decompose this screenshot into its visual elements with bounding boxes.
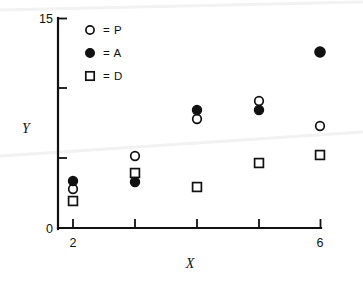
data-point-p-x3 (131, 152, 140, 161)
data-point-d-x2 (69, 197, 78, 206)
data-point-d-x5 (255, 159, 264, 168)
x-tick-label-2: 2 (70, 236, 77, 250)
y-tick-label-0: 0 (46, 222, 53, 236)
legend-marker-open-circle-icon (86, 26, 94, 34)
legend-marker-filled-circle-icon (86, 49, 95, 58)
legend-label-a: = A (103, 47, 122, 59)
x-tick-label-6: 6 (317, 236, 324, 250)
y-tick-label-15: 15 (39, 12, 53, 26)
data-point-a-x6 (315, 47, 325, 57)
x-axis-title: X (185, 256, 195, 271)
series-d-markers (69, 151, 325, 206)
data-point-a-x2 (68, 176, 77, 185)
data-point-p-x6 (316, 122, 325, 131)
data-point-a-x4 (192, 105, 201, 114)
legend-label-d: = D (103, 70, 123, 82)
legend: = P = A = D (86, 24, 123, 82)
data-point-d-x6 (316, 151, 325, 160)
data-point-a-x5 (254, 105, 263, 114)
data-point-d-x3 (131, 169, 140, 178)
data-point-d-x4 (193, 183, 202, 192)
y-axis: 15 0 Y (22, 12, 67, 236)
legend-label-p: = P (103, 24, 122, 36)
plot-canvas: 15 0 Y 2 6 X = P = A = D (0, 0, 363, 282)
data-point-p-x5 (255, 97, 264, 106)
data-point-a-x3 (130, 177, 139, 186)
scatter-chart-figure: 15 0 Y 2 6 X = P = A = D (0, 0, 363, 282)
scan-artifacts (0, 2, 363, 156)
data-point-p-x4 (193, 115, 202, 124)
legend-marker-open-square-icon (86, 72, 94, 80)
x-axis: 2 6 X (58, 219, 324, 271)
y-axis-title: Y (22, 121, 32, 136)
